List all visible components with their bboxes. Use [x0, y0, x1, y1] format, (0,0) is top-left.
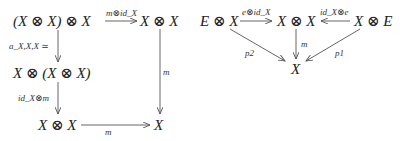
arrow-p2: [230, 29, 285, 61]
label-p2: p2: [245, 49, 254, 58]
node-bottom-left: X ⊗ X: [38, 118, 76, 133]
node-x: X: [291, 62, 300, 77]
label-m: m: [301, 40, 308, 49]
label-e-id: e⊗id_X: [242, 8, 271, 17]
label-bottom: m: [105, 128, 112, 137]
node-middle-left: X ⊗ (X ⊗ X): [13, 66, 91, 81]
node-top-left: (X ⊗ X) ⊗ X: [13, 14, 91, 29]
label-id-e: id_X⊗e: [320, 8, 349, 17]
label-top: m⊗id_X: [106, 9, 137, 18]
label-left-lower: id_X⊗m: [18, 94, 49, 103]
node-x-x: X ⊗ X: [277, 14, 315, 29]
arrow-p1: [306, 29, 360, 61]
node-e-x: E ⊗ X: [200, 14, 238, 29]
label-p1: p1: [335, 49, 344, 58]
label-left-upper: a_X,X,X ≃: [9, 42, 49, 51]
node-top-right: X ⊗ X: [140, 14, 178, 29]
node-bottom-right: X: [154, 118, 163, 133]
node-x-e: X ⊗ E: [354, 14, 392, 29]
label-right: m: [163, 68, 170, 77]
